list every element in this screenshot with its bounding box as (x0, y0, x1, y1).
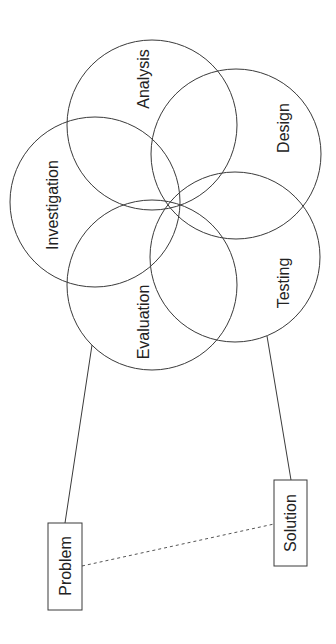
investigation-label: Investigation (44, 160, 61, 250)
testing-label: Testing (275, 258, 292, 309)
problem-label: Problem (57, 536, 74, 596)
testing-circle (150, 172, 320, 342)
analysis-circle (67, 40, 237, 210)
solution-label: Solution (282, 494, 299, 552)
design-circle (151, 69, 321, 239)
problem-solution-dashed-connector (82, 524, 274, 566)
process-diagram: Analysis Design Investigation Testing Ev… (0, 0, 336, 644)
analysis-label: Analysis (135, 49, 152, 109)
testing-solution-connector (267, 336, 291, 480)
investigation-circle (10, 117, 180, 287)
evaluation-label: Evaluation (135, 285, 152, 360)
evaluation-problem-connector (65, 345, 92, 523)
design-label: Design (275, 103, 292, 153)
evaluation-circle (67, 200, 237, 370)
